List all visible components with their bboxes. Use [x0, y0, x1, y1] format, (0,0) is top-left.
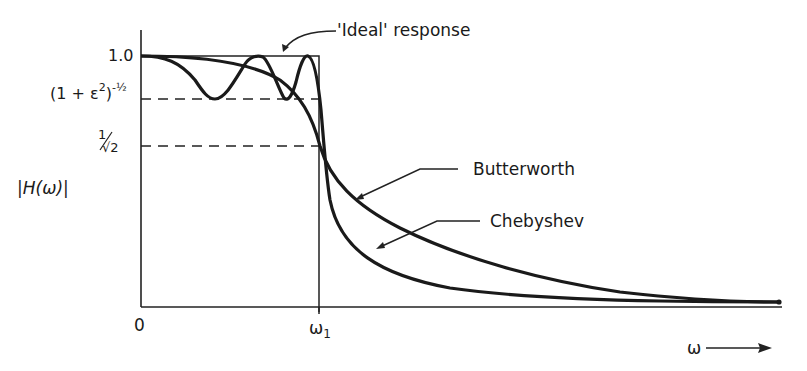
x-tick-cutoff: ω1 — [309, 320, 331, 337]
chebyshev-arrowhead-icon — [376, 242, 385, 249]
ripple-label-close: ) — [106, 84, 112, 103]
cutoff-subscript: 1 — [323, 327, 331, 341]
x-axis-label: ω — [687, 340, 701, 357]
y-axis-label: |H(ω)| — [17, 180, 69, 197]
chebyshev-label: Chebyshev — [490, 213, 584, 230]
ripple-label-square: 2 — [99, 81, 106, 94]
omega-arrowhead-icon — [758, 343, 772, 353]
cutoff-omega: ω — [309, 318, 323, 338]
butterworth-arrowhead-icon — [355, 193, 364, 200]
y-tick-half-power-denominator: √2 — [102, 141, 119, 154]
butterworth-leader-arrow — [358, 169, 458, 198]
y-tick-ripple-level: (1 + ε2)-½ — [50, 86, 127, 102]
x-tick-origin: 0 — [134, 317, 145, 334]
ideal-response-label: 'Ideal' response — [337, 22, 470, 39]
ripple-label-exponent: -½ — [112, 81, 127, 94]
butterworth-curve — [141, 56, 780, 302]
chebyshev-curve — [141, 56, 780, 302]
butterworth-label: Butterworth — [473, 161, 575, 178]
ideal-leader-arrow — [285, 31, 336, 48]
ripple-label-base: (1 + ε — [50, 84, 99, 103]
curve-end-dot — [776, 299, 781, 304]
y-tick-one: 1.0 — [108, 48, 133, 64]
